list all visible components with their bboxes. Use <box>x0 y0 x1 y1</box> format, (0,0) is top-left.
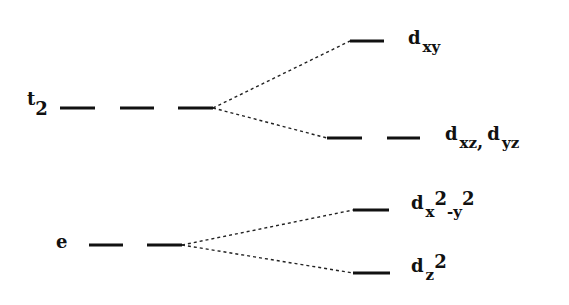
dz2-label: dz2 <box>411 251 447 284</box>
connector-e-dx2-y2 <box>182 210 353 245</box>
connector-t2-dxz-dyz <box>213 108 327 138</box>
dxz-dyz-label: dxz,dyz <box>445 123 520 152</box>
connector-t2-dxy <box>213 41 350 108</box>
dx2-y2-label: dx2-y2 <box>411 188 475 221</box>
connector-e-dz2 <box>182 245 353 273</box>
t2-label: t2 <box>27 88 48 119</box>
dxy-label: dxy <box>408 27 442 56</box>
e-label: e <box>56 231 67 252</box>
orbital-splitting-diagram: t2 e dxy dxz,dyz dx2-y2 dz2 <box>0 0 569 305</box>
